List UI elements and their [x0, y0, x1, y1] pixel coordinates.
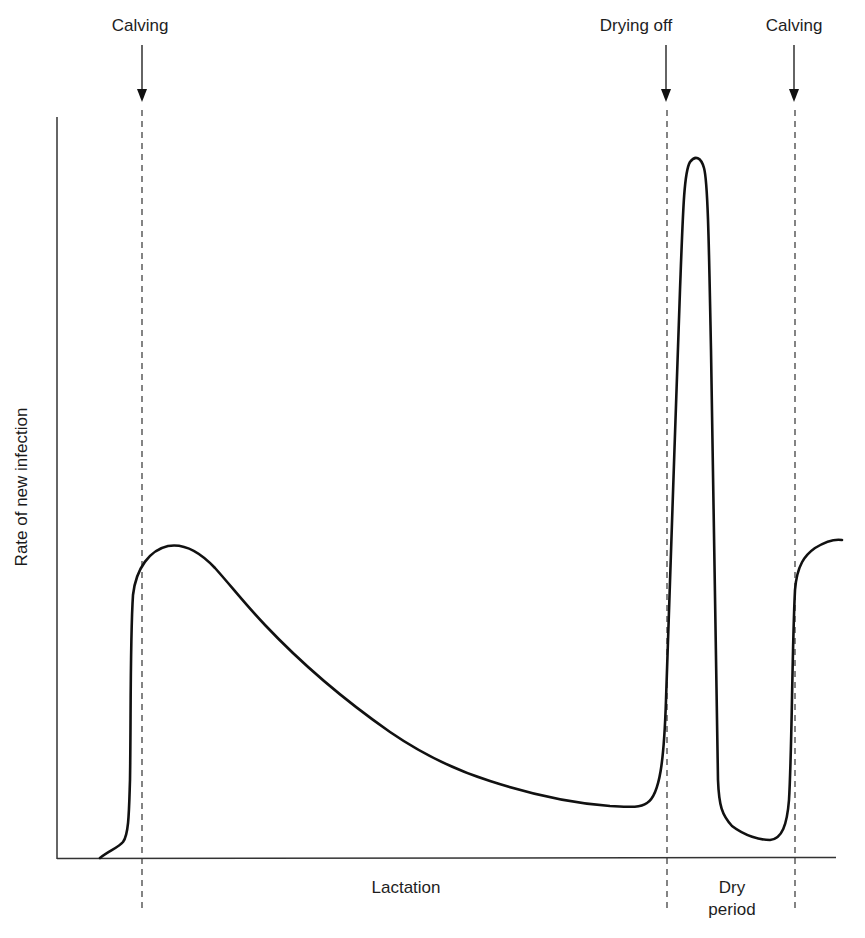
calving-arrow-icon: [137, 45, 147, 102]
x-axis: [57, 858, 836, 859]
drying-off-arrow-icon: [661, 45, 671, 102]
event-label-calving-2: Calving: [766, 16, 823, 36]
event-label-calving: Calving: [112, 16, 169, 36]
infection-rate-diagram: [0, 0, 865, 938]
event-label-drying-off: Drying off: [600, 16, 672, 36]
infection-rate-curve: [100, 158, 842, 858]
period-label-dry: Dry period: [708, 877, 755, 921]
calving-2-arrow-icon: [789, 45, 799, 102]
y-axis-label: Rate of new infection: [12, 408, 32, 567]
period-label-dry-line1: Dry: [708, 877, 755, 899]
period-label-dry-line2: period: [708, 899, 755, 921]
period-label-lactation: Lactation: [372, 877, 441, 899]
